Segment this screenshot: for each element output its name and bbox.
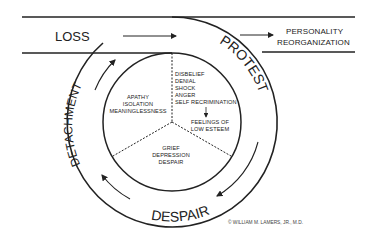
detachment-feelings-list: APATHY ISOLATION MEANINGLESSNESS <box>109 94 166 114</box>
protest-label: PROTEST <box>217 32 272 95</box>
feeling-anger: ANGER <box>175 92 195 98</box>
feeling-self-recrimination: SELF RECRIMINATION <box>175 99 237 105</box>
feeling-grief: GRIEF <box>162 145 180 151</box>
reorg-label-line2: REORGANIZATION <box>277 38 350 47</box>
loss-label: LOSS <box>55 29 90 44</box>
detachment-to-loss-arrow <box>95 60 115 90</box>
low-esteem-label: LOW ESTEEM <box>191 126 230 132</box>
detachment-label: DETACHMENT <box>61 80 85 169</box>
grief-cycle-diagram: LOSS PERSONALITY REORGANIZATION PROTEST … <box>0 0 374 241</box>
despair-label: DESPAIR <box>150 202 211 225</box>
feeling-apathy: APATHY <box>127 94 149 100</box>
feeling-meaninglessness: MEANINGLESSNESS <box>109 108 166 114</box>
feeling-disbelief: DISBELIEF <box>175 71 205 77</box>
feeling-isolation: ISOLATION <box>123 101 153 107</box>
feeling-shock: SHOCK <box>175 85 196 91</box>
feeling-depression: DEPRESSION <box>152 152 190 158</box>
diagram-canvas: LOSS PERSONALITY REORGANIZATION PROTEST … <box>0 0 374 241</box>
feelings-of-label: FEELINGS OF <box>191 119 230 125</box>
protest-feelings-list: DISBELIEF DENIAL SHOCK ANGER SELF RECRIM… <box>175 71 237 105</box>
feeling-despair: DESPAIR <box>159 159 184 165</box>
despair-to-detachment-arrow <box>102 175 130 199</box>
despair-feelings-list: GRIEF DEPRESSION DESPAIR <box>152 145 190 165</box>
reorg-label-line1: PERSONALITY <box>286 27 344 36</box>
feeling-denial: DENIAL <box>175 78 196 84</box>
copyright-text: © WILLIAM M. LAMERS, JR., M.D. <box>228 219 303 225</box>
